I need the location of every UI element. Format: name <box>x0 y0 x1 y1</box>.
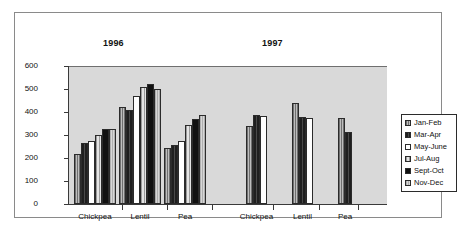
y-axis-tick-mark <box>64 112 69 113</box>
legend-item-mar-apr[interactable]: Mar-Apr <box>405 129 453 141</box>
legend-swatch-icon <box>405 132 411 138</box>
bar[interactable] <box>74 154 81 204</box>
bar[interactable] <box>171 145 178 204</box>
y-axis-tick-label: 200 <box>0 154 38 162</box>
bar[interactable] <box>306 118 313 204</box>
legend-item-sept-oct[interactable]: Sept-Oct <box>405 165 453 177</box>
bar-group-1996-pea <box>164 66 206 204</box>
y-axis-tick-label: 400 <box>0 108 38 116</box>
legend-label: May-June <box>414 143 447 151</box>
x-axis-tick <box>122 205 123 210</box>
legend-label: Nov-Dec <box>414 179 443 187</box>
bar[interactable] <box>345 132 352 204</box>
legend-swatch-icon <box>405 120 411 126</box>
bar[interactable] <box>246 126 253 204</box>
legend-item-jan-feb[interactable]: Jan-Feb <box>405 117 453 129</box>
x-axis-line <box>68 204 387 205</box>
plot-wrapper: 6005004003002001000 ChickpeaLentilPeaChi… <box>42 66 387 205</box>
bar[interactable] <box>147 84 154 204</box>
bar-group-1997-pea <box>338 66 352 204</box>
legend-item-may-june[interactable]: May-June <box>405 141 453 153</box>
y-axis-tick-label: 500 <box>0 85 38 93</box>
legend-label: Sept-Oct <box>414 167 444 175</box>
bar-group-1996-chickpea <box>74 66 116 204</box>
panel-title-1997: 1997 <box>262 38 283 48</box>
bar-group-1996-lentil <box>119 66 161 204</box>
bar[interactable] <box>178 141 185 204</box>
bar[interactable] <box>192 119 199 204</box>
legend-item-jul-aug[interactable]: Jul-Aug <box>405 153 453 165</box>
y-axis-tick-mark <box>64 181 69 182</box>
category-label-lentil: Lentil <box>281 212 325 221</box>
y-axis-tick-mark <box>64 204 69 205</box>
panel-title-1996: 1996 <box>103 38 124 48</box>
legend-label: Jul-Aug <box>414 155 439 163</box>
y-axis-tick-mark <box>64 89 69 90</box>
bar[interactable] <box>164 148 171 204</box>
legend-label: Mar-Apr <box>414 131 441 139</box>
bar[interactable] <box>119 107 126 204</box>
bar[interactable] <box>95 135 102 204</box>
category-label-pea: Pea <box>323 212 367 221</box>
x-axis-tick <box>167 205 168 210</box>
legend: Jan-FebMar-AprMay-JuneJul-AugSept-OctNov… <box>401 114 457 192</box>
bar[interactable] <box>102 129 109 204</box>
bar[interactable] <box>154 89 161 204</box>
y-axis-tick-mark <box>64 135 69 136</box>
category-label-chickpea: Chickpea <box>73 212 117 221</box>
bar[interactable] <box>299 117 306 204</box>
y-axis-tick-mark <box>64 66 69 67</box>
bar[interactable] <box>185 125 192 204</box>
bar[interactable] <box>140 87 147 204</box>
bar[interactable] <box>253 115 260 204</box>
legend-swatch-icon <box>405 156 411 162</box>
y-axis-tick-label: 0 <box>0 200 38 208</box>
bar[interactable] <box>260 116 267 204</box>
bar[interactable] <box>126 110 133 204</box>
x-axis-tick <box>273 205 274 210</box>
bar[interactable] <box>338 118 345 204</box>
legend-item-nov-dec[interactable]: Nov-Dec <box>405 177 453 189</box>
chart-frame: 1996 1997 6005004003002001000 ChickpeaLe… <box>14 12 442 218</box>
y-axis-tick-label: 300 <box>0 131 38 139</box>
y-axis-tick-mark <box>64 158 69 159</box>
bar[interactable] <box>199 115 206 204</box>
x-axis-tick <box>358 205 359 210</box>
category-label-lentil: Lentil <box>118 212 162 221</box>
legend-label: Jan-Feb <box>414 119 442 127</box>
x-axis-tick <box>212 205 213 210</box>
bar-group-1997-lentil <box>292 66 313 204</box>
bar[interactable] <box>81 143 88 204</box>
bar[interactable] <box>88 141 95 204</box>
bar-group-1997-chickpea <box>246 66 267 204</box>
x-axis-tick <box>319 205 320 210</box>
legend-swatch-icon <box>405 144 411 150</box>
bar[interactable] <box>109 129 116 204</box>
legend-swatch-icon <box>405 168 411 174</box>
y-axis-tick-label: 100 <box>0 177 38 185</box>
bar[interactable] <box>292 103 299 204</box>
bar[interactable] <box>133 96 140 204</box>
legend-swatch-icon <box>405 180 411 186</box>
category-label-pea: Pea <box>163 212 207 221</box>
category-label-chickpea: Chickpea <box>235 212 279 221</box>
y-axis-tick-label: 600 <box>0 62 38 70</box>
